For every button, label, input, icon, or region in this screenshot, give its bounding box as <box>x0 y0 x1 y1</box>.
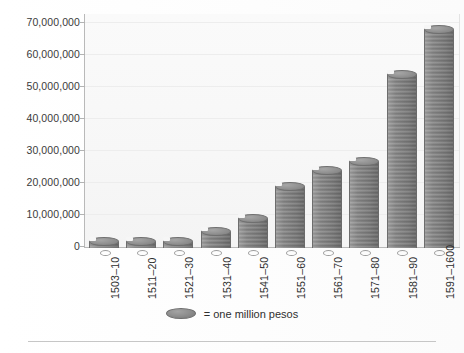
bottom-divider <box>28 341 436 342</box>
coin-rim-notch <box>238 214 245 218</box>
coin-stack <box>275 187 305 248</box>
x-axis-label-1581-90: 1581–90 <box>407 257 419 299</box>
legend-label: = one million pesos <box>204 308 298 320</box>
axis-coin-marker <box>100 250 111 256</box>
axis-coin-marker <box>323 250 334 256</box>
coin-stack <box>424 30 454 248</box>
coin-stack <box>312 171 342 248</box>
coin-stack <box>238 219 268 248</box>
y-axis-label-10000000: 10,000,000 <box>6 208 80 220</box>
y-axis-label-60000000: 60,000,000 <box>6 48 80 60</box>
x-axis-label-1551-60: 1551–60 <box>295 257 307 299</box>
bar-series-coin-stacks <box>84 14 460 248</box>
y-axis-label-0: 0 <box>6 240 80 252</box>
coin-rim-notch <box>312 166 319 170</box>
x-axis-label-1561-70: 1561–70 <box>332 257 344 299</box>
axis-coin-marker <box>211 250 222 256</box>
coin-rim-notch <box>89 237 96 241</box>
axis-coin-marker <box>397 250 408 256</box>
x-axis-label-1521-30: 1521–30 <box>183 257 195 299</box>
y-axis-label-50000000: 50,000,000 <box>6 80 80 92</box>
coin-rim-notch <box>349 157 356 161</box>
axis-coin-marker <box>174 250 185 256</box>
coin-rim-notch <box>387 70 394 74</box>
x-axis-label-1571-80: 1571–80 <box>369 257 381 299</box>
x-axis-label-1541-50: 1541–50 <box>258 257 270 299</box>
coin-stack <box>387 75 417 248</box>
y-axis-label-20000000: 20,000,000 <box>6 176 80 188</box>
x-axis-label-1503-10: 1503–10 <box>109 257 121 299</box>
coin-rim-notch <box>126 237 133 241</box>
axis-coin-marker <box>137 250 148 256</box>
x-axis-label-1591-1600: 1591–1600 <box>444 245 456 299</box>
axis-coin-marker <box>360 250 371 256</box>
chart-figure: 70,000,000 60,000,000 50,000,000 40,000,… <box>0 0 464 353</box>
legend-entry: = one million pesos <box>166 304 298 322</box>
coin-rim-notch <box>201 227 208 231</box>
x-axis-label-1511-20: 1511–20 <box>146 258 158 300</box>
axis-coin-marker <box>248 250 259 256</box>
coin-rim-notch <box>163 237 170 241</box>
coin-rim-notch <box>275 182 282 186</box>
y-axis-label-30000000: 30,000,000 <box>6 144 80 156</box>
y-axis-label-40000000: 40,000,000 <box>6 112 80 124</box>
y-axis-labels: 70,000,000 60,000,000 50,000,000 40,000,… <box>0 0 80 353</box>
x-axis-label-1531-40: 1531–40 <box>221 257 233 299</box>
coin-stack <box>349 162 379 248</box>
axis-coin-marker <box>286 250 297 256</box>
y-axis-label-70000000: 70,000,000 <box>6 16 80 28</box>
coin-rim-notch <box>424 25 431 29</box>
legend: = one million pesos <box>0 304 464 322</box>
coin-icon <box>166 308 196 319</box>
